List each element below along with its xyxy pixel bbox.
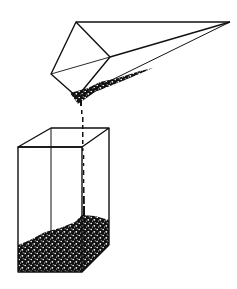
box-top-rim <box>18 128 109 147</box>
pyramid-funnel <box>51 22 230 104</box>
pyramid-base-diagonal <box>51 57 110 74</box>
open-box <box>18 128 109 272</box>
funnel-grains <box>70 68 153 104</box>
funnel-pouring-diagram <box>0 0 237 289</box>
box-grains <box>18 215 109 272</box>
